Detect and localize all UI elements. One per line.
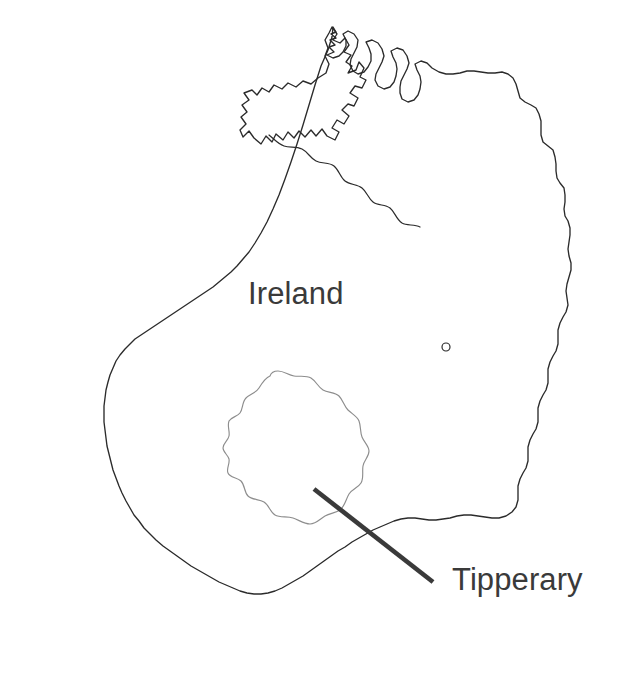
- tipperary-leader-line: [314, 489, 433, 582]
- map-canvas: Ireland Tipperary: [0, 0, 625, 693]
- county-tipperary-outline: [223, 371, 369, 524]
- dublin-bay-marker: [442, 343, 450, 351]
- northern-ireland-border: [269, 135, 420, 227]
- country-label: Ireland: [248, 276, 344, 311]
- map-figure: Ireland Tipperary: [0, 0, 625, 693]
- county-label: Tipperary: [452, 562, 583, 597]
